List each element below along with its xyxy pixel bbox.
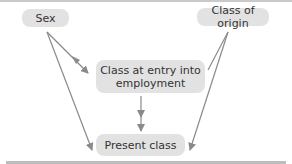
- node-sex: Sex: [22, 9, 69, 27]
- node-present-class: Present class: [96, 134, 185, 156]
- edge-sex-to-present: [47, 32, 92, 150]
- node-class-of-origin: Class of origin: [197, 8, 269, 26]
- arrowhead-icon: [137, 110, 145, 118]
- arrowhead-icon: [72, 56, 80, 64]
- node-label: Class at entry into employment: [100, 64, 201, 90]
- node-class-at-entry: Class at entry into employment: [96, 60, 205, 93]
- bottom-border: [6, 161, 286, 164]
- edge-sex-to-entry: [47, 32, 88, 73]
- node-label: Sex: [35, 12, 55, 25]
- node-label: Class of origin: [197, 4, 269, 30]
- node-label: Present class: [104, 139, 176, 152]
